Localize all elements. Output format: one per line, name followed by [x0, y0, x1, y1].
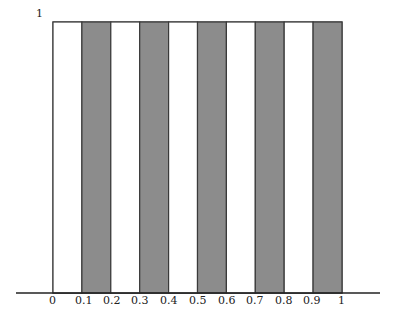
x-tick-label: 0.9	[303, 294, 321, 307]
bar-0.6-0.7	[226, 22, 255, 293]
x-tick-label: 0.1	[75, 294, 93, 307]
bar-0.7-0.8-shaded	[255, 22, 284, 293]
bar-0.9-1.0-shaded	[313, 22, 342, 293]
x-tick-label: 0	[49, 294, 56, 307]
bar-0.0-0.1	[53, 22, 82, 293]
bar-0.2-0.3	[111, 22, 140, 293]
bar-0.5-0.6-shaded	[198, 22, 227, 293]
x-tick-label: 0.8	[275, 294, 293, 307]
x-tick-label: 0.3	[131, 294, 149, 307]
x-tick-label: 0.2	[103, 294, 121, 307]
bar-0.3-0.4-shaded	[140, 22, 169, 293]
x-tick-label: 0.7	[246, 294, 264, 307]
x-tick-label: 0.5	[189, 294, 207, 307]
x-tick-labels: 0 0.1 0.2 0.3 0.4 0.5 0.6 0.7 0.8 0.9 1	[49, 294, 345, 307]
bar-0.8-0.9	[284, 22, 313, 293]
x-tick-label: 0.4	[160, 294, 178, 307]
x-tick-label: 0.6	[218, 294, 236, 307]
y-tick-label-1: 1	[36, 7, 43, 20]
x-tick-label: 1	[338, 294, 345, 307]
interval-diagram: 1 0 0.1 0.2 0.3 0.4 0.5 0.6 0.7 0.8 0.9 …	[0, 0, 396, 320]
bar-0.1-0.2-shaded	[82, 22, 111, 293]
bar-0.4-0.5	[169, 22, 198, 293]
interval-bars	[53, 22, 342, 293]
